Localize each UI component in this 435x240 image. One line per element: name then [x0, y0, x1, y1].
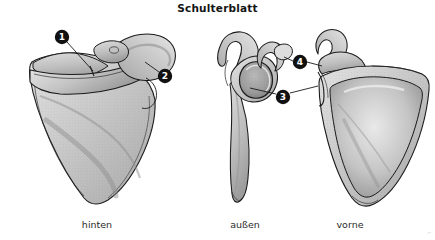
marker-1-number: 1	[59, 32, 65, 42]
corner-mark: ⌐	[427, 230, 431, 236]
marker-1[interactable]: 1	[55, 30, 69, 44]
marker-2[interactable]: 2	[158, 69, 172, 83]
view-posterior	[29, 34, 175, 204]
lateral-coracoid-tip	[274, 44, 292, 60]
marker-4[interactable]: 4	[293, 55, 307, 69]
marker-4-number: 4	[297, 57, 303, 67]
view-lateral	[218, 32, 293, 202]
scapula-illustration: 1 2 3 4	[0, 0, 435, 240]
leader-line-3-right	[290, 86, 318, 93]
posterior-coracoid-notch	[110, 47, 119, 53]
view-label-aussen: außen	[210, 219, 280, 230]
marker-3[interactable]: 3	[276, 90, 290, 104]
marker-3-number: 3	[280, 92, 286, 102]
marker-2-number: 2	[162, 71, 168, 81]
view-label-hinten: hinten	[62, 219, 132, 230]
view-anterior	[316, 29, 429, 206]
anatomy-figure: Schulterblatt	[0, 0, 435, 240]
lateral-glenoid-texture	[240, 62, 273, 99]
view-label-vorne: vorne	[315, 219, 385, 230]
